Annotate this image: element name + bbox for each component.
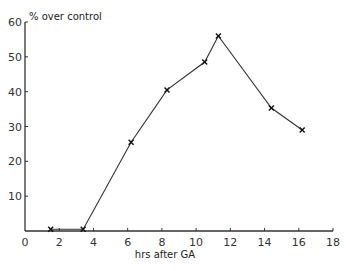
x-tick-label: 18 — [326, 236, 340, 249]
series-line — [51, 36, 303, 229]
x-tick-label: 0 — [22, 236, 29, 249]
y-axis-title: % over control — [29, 11, 102, 22]
x-tick-label: 4 — [90, 236, 97, 249]
x-marker-icon — [216, 33, 221, 38]
y-tick-label: 60 — [8, 16, 22, 29]
data-series — [48, 33, 305, 231]
x-tick-label: 6 — [124, 236, 131, 249]
x-marker-icon — [269, 106, 274, 111]
x-tick-label: 2 — [56, 236, 63, 249]
x-marker-icon — [300, 127, 305, 132]
x-marker-icon — [202, 60, 207, 65]
x-marker-icon — [165, 87, 170, 92]
x-tick-label: 10 — [189, 236, 203, 249]
y-tick-label: 30 — [8, 121, 22, 134]
x-tick-label: 8 — [158, 236, 165, 249]
x-tick-label: 16 — [292, 236, 306, 249]
x-tick-label: 12 — [223, 236, 237, 249]
ticks: 024681012141618102030405060 — [8, 16, 340, 249]
y-tick-label: 20 — [8, 155, 22, 168]
line-chart: 024681012141618102030405060 % over contr… — [0, 0, 346, 271]
x-marker-icon — [129, 140, 134, 145]
x-tick-label: 14 — [258, 236, 272, 249]
y-tick-label: 40 — [8, 86, 22, 99]
x-axis-title: hrs after GA — [135, 249, 195, 260]
y-tick-label: 50 — [8, 51, 22, 64]
y-tick-label: 10 — [8, 190, 22, 203]
axes — [25, 22, 333, 231]
